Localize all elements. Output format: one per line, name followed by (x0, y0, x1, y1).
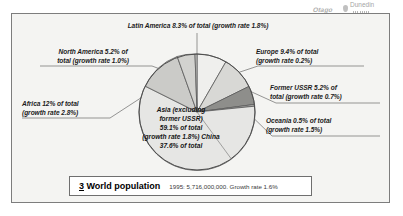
caption-title: 3 World population (79, 181, 160, 191)
label-europe: Europe 9.4% of total (growth rate 0.2%) (256, 48, 364, 65)
label-latin-america: Latin America 8.3% of total (growth rate… (104, 22, 292, 31)
label-north-america: North America 5.2% of total (growth rate… (40, 48, 146, 65)
caption-figure-number: 3 (79, 181, 84, 191)
label-oceania: Oceania 0.5% of total (growth rate 1.5%) (266, 117, 378, 134)
label-former-ussr: Former USSR 5.2% of total (growth rate 0… (270, 84, 380, 101)
caption-detail: 1995: 5,716,000,000. Growth rate 1.6% (169, 183, 277, 190)
label-africa: Africa 12% of total (growth rate 2.8%) (22, 100, 118, 117)
leader-line-europe (222, 66, 364, 78)
leader-line-north-america (40, 66, 168, 72)
caption-title-text: World population (87, 181, 161, 191)
caption-box: 3 World population 1995: 5,716,000,000. … (69, 176, 312, 196)
label-asia: Asia (excluding former USSR) 59.1% of to… (123, 105, 239, 150)
